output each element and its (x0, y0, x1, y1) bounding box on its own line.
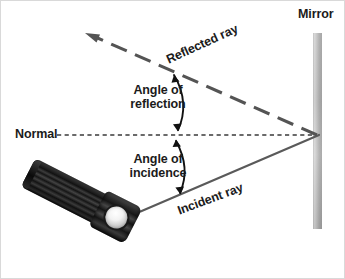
angle-of-incidence-label: Angle of incidence (117, 152, 199, 180)
normal-label: Normal (15, 127, 57, 141)
angle-of-incidence-line2: incidence (117, 166, 199, 180)
angle-of-incidence-line1: Angle of (117, 152, 199, 166)
angle-of-reflection-line1: Angle of (117, 83, 199, 97)
mirror-bar-icon (313, 33, 322, 229)
angle-of-reflection-label: Angle of reflection (117, 83, 199, 111)
angle-of-reflection-line2: reflection (117, 97, 199, 111)
mirror-label: Mirror (298, 7, 334, 21)
reflection-diagram: Mirror Normal Angle of reflection Angle … (0, 0, 345, 279)
arrow-up-left-icon (85, 33, 100, 43)
